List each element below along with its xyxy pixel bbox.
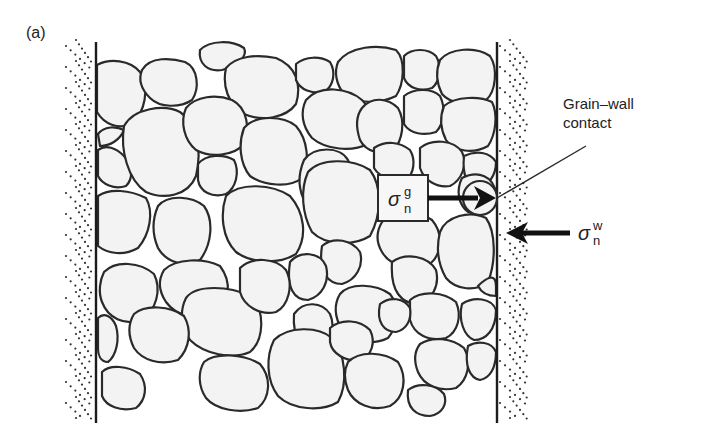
wall-stress-label: σ — [578, 222, 591, 244]
grain — [289, 254, 327, 300]
grain — [154, 198, 211, 264]
wall-stress-sub: n — [593, 233, 600, 248]
grain-stress-sub: n — [404, 201, 411, 216]
grain — [415, 339, 468, 389]
contact-leader-line — [497, 146, 586, 198]
grain — [345, 354, 404, 408]
grain — [98, 127, 124, 146]
grain — [241, 118, 307, 185]
wall-stress-sup: w — [592, 218, 603, 233]
grain — [183, 97, 247, 155]
grain — [467, 343, 496, 380]
grain-packing — [97, 42, 496, 416]
granular-wall-diagram: (a) — [0, 0, 701, 437]
grain — [102, 367, 145, 409]
panel-label: (a) — [26, 24, 46, 41]
grain — [461, 299, 496, 340]
grain — [98, 191, 150, 253]
grain — [296, 58, 333, 93]
grain — [240, 260, 290, 313]
grain — [200, 355, 268, 410]
grain — [98, 315, 118, 362]
grain — [404, 50, 439, 90]
grain — [437, 50, 495, 104]
grain — [198, 156, 237, 195]
contact-label-line2: contact — [563, 114, 612, 131]
grain-stress-sup: g — [404, 184, 411, 199]
contact-label-line1: Grain–wall — [563, 95, 634, 112]
grain-stress-label: σ — [388, 188, 401, 210]
grain — [438, 214, 494, 288]
grain — [379, 299, 410, 332]
wall-stress-arrow — [506, 222, 570, 244]
grain — [140, 59, 196, 106]
grain — [303, 161, 379, 243]
grain — [404, 90, 443, 134]
grain — [408, 385, 445, 416]
grain — [130, 307, 189, 362]
left-wall-hatching — [65, 39, 92, 420]
grain — [223, 186, 303, 261]
grain — [410, 293, 459, 339]
grain-stress-box — [378, 175, 428, 221]
